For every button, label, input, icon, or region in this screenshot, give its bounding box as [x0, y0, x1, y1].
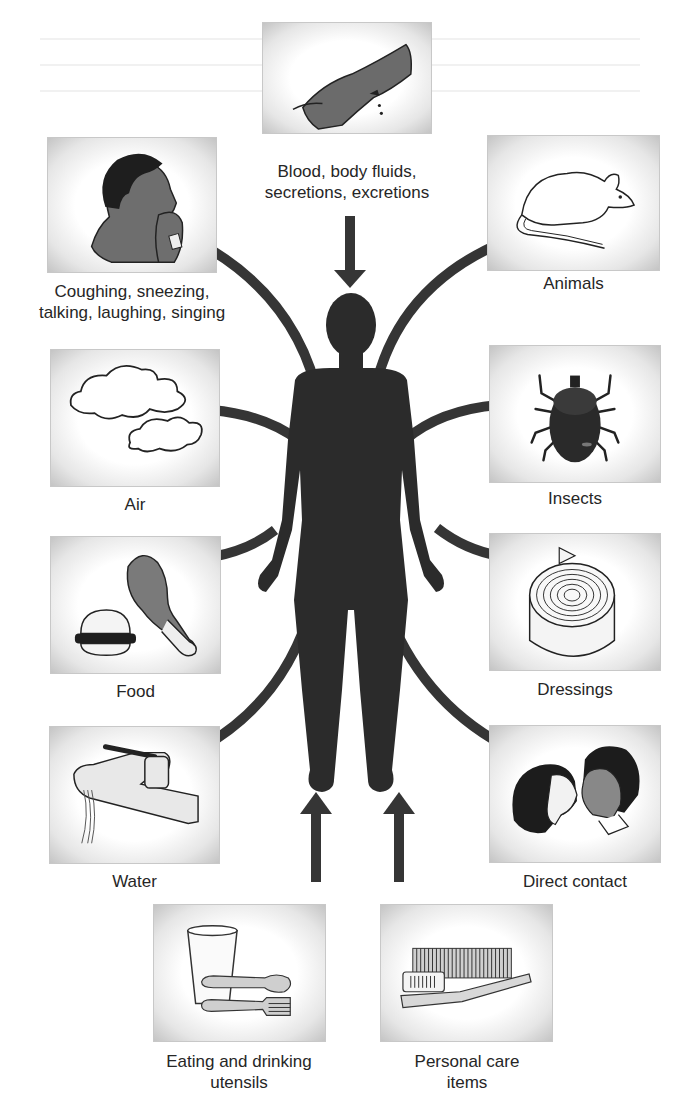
cup-spoon-fork-icon: [154, 905, 325, 1041]
arrow-blood: [334, 216, 366, 288]
label-personal: Personal careitems: [352, 1051, 582, 1093]
label-direct: Direct contact: [489, 871, 661, 892]
tile-coughing: [47, 137, 217, 273]
label-air: Air: [50, 494, 220, 515]
tile-personal: [380, 904, 553, 1042]
coughing-person-icon: [48, 138, 216, 272]
human-silhouette-icon: [258, 293, 444, 792]
tile-water: [49, 726, 220, 864]
tile-food: [50, 536, 221, 674]
bleeding-hand-icon: [263, 23, 431, 133]
label-dressings: Dressings: [489, 679, 661, 700]
burger-drumstick-icon: [51, 537, 220, 673]
tick-icon: [490, 346, 660, 482]
tile-direct: [489, 725, 661, 863]
label-water: Water: [49, 871, 220, 892]
connector-coughing: [203, 245, 320, 405]
kissing-couple-icon: [490, 726, 660, 862]
bandage-roll-icon: [490, 534, 660, 670]
connector-insects: [405, 405, 498, 440]
tile-dressings: [489, 533, 661, 671]
connector-direct: [385, 605, 503, 745]
arrow-utensils: [300, 792, 332, 882]
tile-animals: [487, 135, 660, 271]
tile-blood: [262, 22, 432, 134]
label-utensils: Eating and drinkingutensils: [124, 1051, 354, 1093]
label-insects: Insects: [489, 488, 661, 509]
connector-animals: [372, 242, 503, 405]
transmission-diagram: Blood, body fluids,secretions, excretion…: [0, 0, 683, 1107]
tile-utensils: [153, 904, 326, 1042]
connector-air: [212, 410, 298, 440]
faucet-icon: [50, 727, 219, 863]
tile-insects: [489, 345, 661, 483]
label-blood: Blood, body fluids,secretions, excretion…: [247, 161, 447, 203]
connector-food: [212, 530, 275, 557]
clouds-icon: [51, 350, 219, 486]
label-food: Food: [50, 681, 221, 702]
mouse-icon: [488, 136, 659, 270]
label-animals: Animals: [487, 273, 660, 294]
comb-toothbrush-icon: [381, 905, 552, 1041]
arrow-personal: [383, 792, 415, 882]
label-coughing: Coughing, sneezing,talking, laughing, si…: [17, 281, 247, 323]
tile-air: [50, 349, 220, 487]
